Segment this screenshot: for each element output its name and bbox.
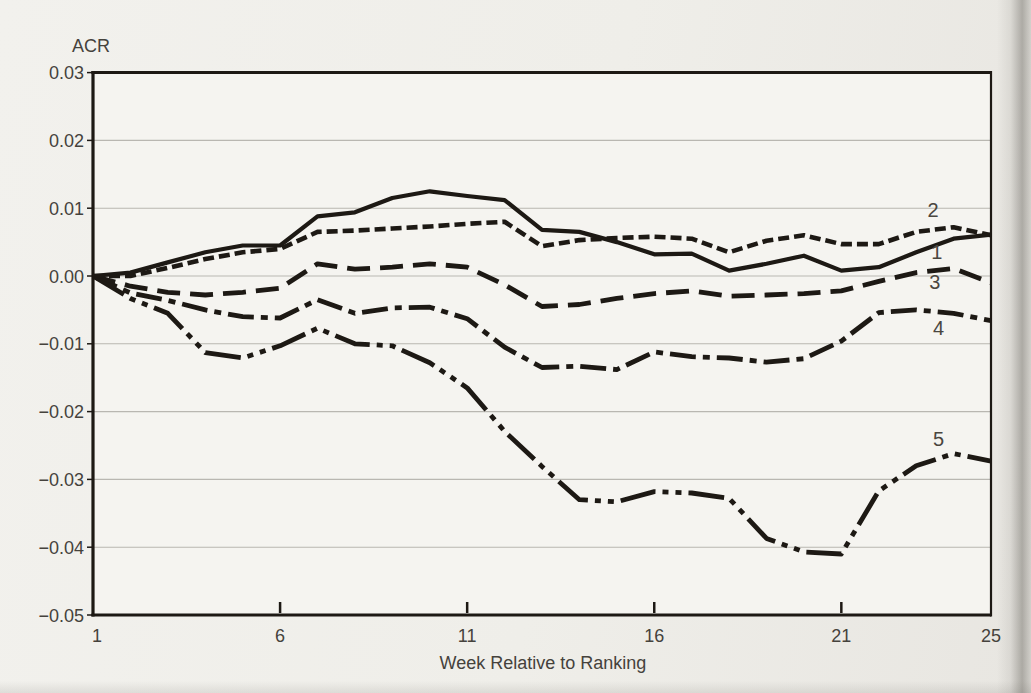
- x-axis-title: Week Relative to Ranking: [440, 653, 647, 673]
- scanned-page: ACR Week Relative to Ranking 213450.030.…: [0, 0, 1031, 693]
- y-tick-label-0.03: 0.03: [49, 63, 84, 83]
- y-tick-label-0.02: 0.02: [49, 131, 84, 151]
- y-tick-label-−0.01: −0.01: [38, 334, 84, 354]
- series-label-2: 2: [927, 199, 938, 221]
- chart-canvas: ACR Week Relative to Ranking 213450.030.…: [0, 0, 1031, 693]
- y-tick-label-0.00: 0.00: [49, 267, 84, 287]
- series-label-1: 1: [931, 241, 942, 263]
- series-label-5: 5: [933, 428, 944, 450]
- x-tick-label-21: 21: [831, 626, 851, 646]
- x-tick-label-25: 25: [981, 626, 1001, 646]
- x-tick-label-16: 16: [644, 626, 664, 646]
- y-tick-label-0.01: 0.01: [49, 199, 84, 219]
- y-tick-label-−0.02: −0.02: [38, 402, 84, 422]
- x-tick-label-1: 1: [92, 626, 102, 646]
- y-tick-label-−0.03: −0.03: [38, 470, 84, 490]
- series-label-4: 4: [933, 317, 944, 339]
- acr-chart: ACR Week Relative to Ranking 213450.030.…: [0, 0, 1031, 693]
- series-label-3: 3: [929, 271, 940, 293]
- x-tick-label-11: 11: [458, 626, 477, 646]
- y-tick-label-−0.04: −0.04: [38, 538, 84, 558]
- y-axis-title: ACR: [72, 36, 110, 56]
- y-tick-label-−0.05: −0.05: [38, 606, 84, 626]
- x-tick-label-6: 6: [275, 626, 285, 646]
